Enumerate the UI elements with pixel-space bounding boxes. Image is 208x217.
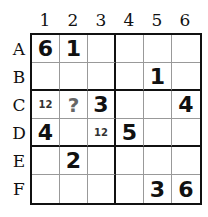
cell-d1[interactable]: 4 bbox=[32, 119, 60, 147]
cell-f6[interactable]: 6 bbox=[172, 175, 200, 203]
cell-a2[interactable]: 1 bbox=[60, 35, 88, 63]
cell-d3[interactable]: 12 bbox=[88, 119, 116, 147]
row-label: A bbox=[9, 35, 29, 63]
cell-c2[interactable]: ? bbox=[60, 91, 88, 119]
column-label: 6 bbox=[171, 10, 199, 30]
cell-e6[interactable] bbox=[172, 147, 200, 175]
column-label: 3 bbox=[87, 10, 115, 30]
row-label: B bbox=[9, 63, 29, 91]
cell-e2[interactable]: 2 bbox=[60, 147, 88, 175]
cell-d6[interactable] bbox=[172, 119, 200, 147]
cell-f3[interactable] bbox=[88, 175, 116, 203]
cell-e1[interactable] bbox=[32, 147, 60, 175]
cell-b1[interactable] bbox=[32, 63, 60, 91]
cell-a5[interactable] bbox=[144, 35, 172, 63]
cell-b2[interactable] bbox=[60, 63, 88, 91]
cell-f1[interactable] bbox=[32, 175, 60, 203]
cell-b3[interactable] bbox=[88, 63, 116, 91]
cell-c3[interactable]: 3 bbox=[88, 91, 116, 119]
cell-f4[interactable] bbox=[116, 175, 144, 203]
cell-b6[interactable] bbox=[172, 63, 200, 91]
column-label: 2 bbox=[59, 10, 87, 30]
puzzle-grid: 61112?344125236 bbox=[30, 33, 202, 205]
cell-b5[interactable]: 1 bbox=[144, 63, 172, 91]
cell-f5[interactable]: 3 bbox=[144, 175, 172, 203]
column-label: 5 bbox=[143, 10, 171, 30]
cell-f2[interactable] bbox=[60, 175, 88, 203]
cell-b4[interactable] bbox=[116, 63, 144, 91]
cell-d2[interactable] bbox=[60, 119, 88, 147]
row-label: D bbox=[9, 119, 29, 147]
cell-a6[interactable] bbox=[172, 35, 200, 63]
cell-a1[interactable]: 6 bbox=[32, 35, 60, 63]
cell-e4[interactable] bbox=[116, 147, 144, 175]
cell-c4[interactable] bbox=[116, 91, 144, 119]
cell-d5[interactable] bbox=[144, 119, 172, 147]
row-label: E bbox=[9, 147, 29, 175]
cell-c6[interactable]: 4 bbox=[172, 91, 200, 119]
cell-c5[interactable] bbox=[144, 91, 172, 119]
column-label: 4 bbox=[115, 10, 143, 30]
cell-e5[interactable] bbox=[144, 147, 172, 175]
row-label: F bbox=[9, 175, 29, 203]
cell-a4[interactable] bbox=[116, 35, 144, 63]
row-label: C bbox=[9, 91, 29, 119]
cell-a3[interactable] bbox=[88, 35, 116, 63]
cell-c1[interactable]: 12 bbox=[32, 91, 60, 119]
column-label: 1 bbox=[31, 10, 59, 30]
cell-e3[interactable] bbox=[88, 147, 116, 175]
cell-d4[interactable]: 5 bbox=[116, 119, 144, 147]
